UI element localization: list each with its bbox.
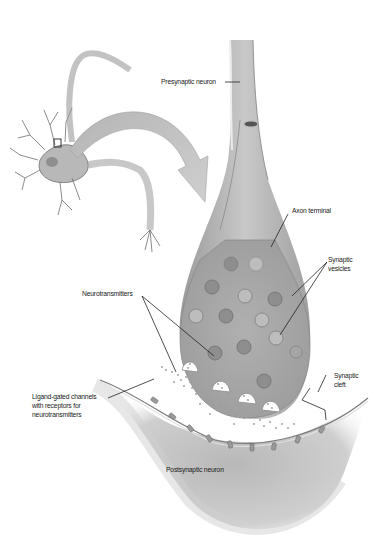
zoom-arrow <box>70 112 208 202</box>
label-synaptic-vesicles-2: vesicles <box>328 265 351 274</box>
neuron-overview <box>10 53 160 252</box>
label-postsynaptic-neuron: Postsynaptic neuron <box>166 466 224 475</box>
label-ligand-channels-3: neurotransmitters <box>32 411 81 420</box>
label-neurotransmitters: Neurotransmitters <box>82 290 133 299</box>
label-presynaptic-neuron: Presynaptic neuron <box>161 78 216 87</box>
label-axon-terminal: Axon terminal <box>292 207 331 216</box>
label-synaptic-cleft-2: cleft <box>334 381 345 390</box>
